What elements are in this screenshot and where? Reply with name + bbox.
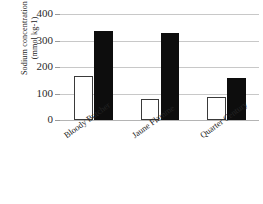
plot-area xyxy=(60,14,259,120)
y-tick-label-200: 200 xyxy=(19,61,53,72)
y-tick-400 xyxy=(55,14,60,15)
y-tick-300 xyxy=(55,41,60,42)
gridline-300 xyxy=(60,41,259,42)
x-axis-category-labels: Bloody ButcherJaune FlammeQuarter Centur… xyxy=(0,120,263,204)
gridline-400 xyxy=(60,14,259,15)
y-tick-100 xyxy=(55,94,60,95)
y-tick-label-400: 400 xyxy=(19,8,53,19)
y-tick-200 xyxy=(55,67,60,68)
bar-chart: Sodium concentration (mmol kg-1) 0100200… xyxy=(0,0,263,204)
y-tick-label-100: 100 xyxy=(19,88,53,99)
y-tick-label-300: 300 xyxy=(19,35,53,46)
gridline-200 xyxy=(60,67,259,68)
